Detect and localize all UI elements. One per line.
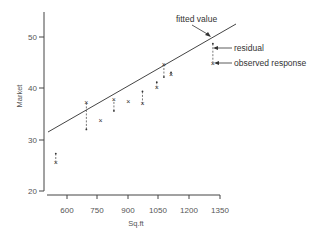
annot-fitted-value: fitted value xyxy=(176,14,217,24)
annot-observed-response: observed response xyxy=(234,58,307,68)
x-tick-750: 750 xyxy=(90,206,104,215)
data-point: × xyxy=(155,84,159,91)
y-tick-40: 40 xyxy=(28,84,37,93)
x-axis xyxy=(47,195,220,199)
residual-lines xyxy=(56,44,213,163)
x-tick-1200: 1200 xyxy=(180,206,198,215)
x-axis-title: Sq.ft xyxy=(128,219,144,228)
data-point: × xyxy=(169,71,173,78)
fitted-markers xyxy=(55,43,214,155)
x-tick-900: 900 xyxy=(121,206,135,215)
annot-residual: residual xyxy=(234,43,264,53)
observed-points: ×××××××××× xyxy=(54,60,215,166)
data-point: × xyxy=(140,100,144,107)
y-axis-title: Market xyxy=(15,84,24,108)
x-tick-600: 600 xyxy=(60,206,74,215)
data-point: × xyxy=(99,117,103,124)
annotations: fitted value residual observed response xyxy=(176,14,307,68)
y-tick-30: 30 xyxy=(28,136,37,145)
fitted-line xyxy=(48,24,236,132)
y-tick-20: 20 xyxy=(28,187,37,196)
x-tick-1050: 1050 xyxy=(149,206,167,215)
regression-chart: 50 40 30 20 600 750 900 1050 1200 1350 S… xyxy=(0,0,319,236)
x-tick-1350: 1350 xyxy=(211,206,229,215)
y-tick-labels: 50 40 30 20 xyxy=(28,33,37,196)
data-point: × xyxy=(162,61,166,68)
data-point: × xyxy=(211,60,215,67)
y-tick-50: 50 xyxy=(28,33,37,42)
data-point: × xyxy=(54,159,58,166)
arrow-icon xyxy=(213,46,218,50)
data-point: × xyxy=(84,99,88,106)
data-point: × xyxy=(112,96,116,103)
data-point: × xyxy=(126,98,130,105)
y-axis xyxy=(39,12,44,191)
x-tick-labels: 600 750 900 1050 1200 1350 xyxy=(60,206,229,215)
